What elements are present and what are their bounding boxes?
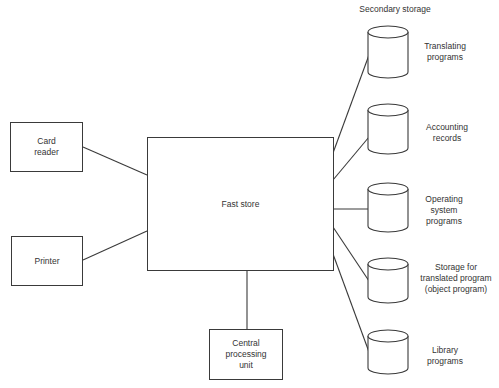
storage-label-accounting: Accounting records	[407, 122, 487, 144]
cpu-node: Central processing unit	[209, 329, 283, 380]
card-reader-node: Card reader	[10, 122, 83, 172]
edge-card-reader-fast-store	[83, 147, 147, 175]
edge-fast-store-accounting	[333, 137, 369, 180]
storage-label-library: Library programs	[405, 345, 485, 367]
storage-cylinder-object	[368, 258, 408, 303]
storage-label-object: Storage for translated program (object p…	[415, 262, 497, 295]
fast-store-node: Fast store	[147, 137, 334, 271]
storage-cylinder-library	[368, 330, 408, 374]
cpu-label: Central processing unit	[225, 338, 266, 371]
printer-node: Printer	[11, 236, 83, 286]
storage-cylinder-translating	[368, 26, 408, 78]
storage-label-translating: Translating programs	[405, 41, 485, 63]
printer-label: Printer	[34, 256, 59, 267]
edge-fast-store-translating	[333, 55, 369, 153]
edge-fast-store-object-storage	[333, 227, 369, 281]
edge-printer-fast-store	[83, 231, 147, 260]
card-reader-label: Card reader	[34, 136, 59, 158]
fast-store-label: Fast store	[222, 199, 260, 210]
storage-cylinder-accounting	[368, 104, 408, 154]
edge-fast-store-library	[333, 254, 369, 352]
secondary-storage-title: Secondary storage	[340, 4, 450, 15]
storage-label-operating: Operating system programs	[404, 194, 484, 227]
storage-cylinder-operating	[368, 183, 408, 232]
